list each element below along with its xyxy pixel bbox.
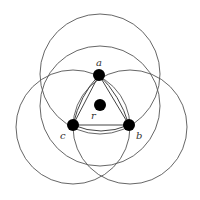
- label-b: b: [136, 130, 142, 141]
- label-a: a: [96, 57, 102, 68]
- edge-a-b: [99, 75, 129, 125]
- diagram-canvas: a b c r: [0, 0, 200, 200]
- node-a: [93, 69, 105, 81]
- label-r: r: [91, 110, 97, 121]
- node-r: [94, 99, 106, 111]
- label-c: c: [60, 130, 66, 141]
- node-c: [67, 119, 79, 131]
- node-b: [123, 119, 135, 131]
